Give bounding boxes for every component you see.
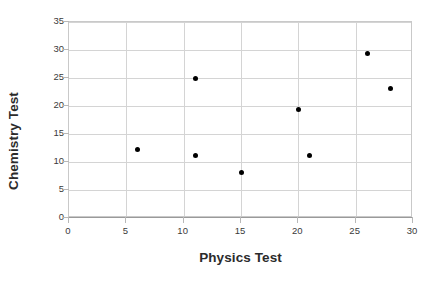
x-tick-mark — [412, 217, 413, 223]
y-tick-label: 5 — [38, 184, 64, 194]
data-point — [365, 51, 370, 56]
gridline-vertical — [184, 22, 185, 216]
y-tick-label: 30 — [38, 44, 64, 54]
y-tick-label: 35 — [38, 16, 64, 26]
x-tick-mark — [68, 217, 69, 223]
y-tick-mark — [63, 189, 69, 190]
gridline-vertical — [356, 22, 357, 216]
plot-area — [68, 21, 412, 217]
y-tick-label: 25 — [38, 72, 64, 82]
x-tick-label: 25 — [340, 226, 370, 236]
y-tick-mark — [63, 21, 69, 22]
y-tick-mark — [63, 161, 69, 162]
x-tick-label: 20 — [282, 226, 312, 236]
x-tick-mark — [125, 217, 126, 223]
y-tick-mark — [63, 105, 69, 106]
y-tick-mark — [63, 49, 69, 50]
x-axis-title: Physics Test — [68, 250, 413, 265]
x-tick-mark — [240, 217, 241, 223]
gridline-horizontal — [69, 50, 411, 51]
gridline-vertical — [298, 22, 299, 216]
data-point — [296, 107, 301, 112]
y-tick-label: 15 — [38, 128, 64, 138]
x-tick-mark — [183, 217, 184, 223]
y-tick-mark — [63, 77, 69, 78]
data-point — [239, 170, 244, 175]
gridline-horizontal — [69, 162, 411, 163]
gridline-vertical — [126, 22, 127, 216]
x-tick-mark — [297, 217, 298, 223]
y-tick-label: 0 — [38, 212, 64, 222]
x-tick-label: 5 — [110, 226, 140, 236]
data-point — [193, 76, 198, 81]
scatter-chart: Chemistry Test 05101520253035 0510152025… — [0, 0, 435, 282]
x-tick-label: 10 — [168, 226, 198, 236]
data-point — [135, 147, 140, 152]
y-tick-label: 10 — [38, 156, 64, 166]
y-tick-label: 20 — [38, 100, 64, 110]
gridline-horizontal — [69, 190, 411, 191]
y-tick-mark — [63, 133, 69, 134]
gridline-horizontal — [69, 106, 411, 107]
gridline-vertical — [241, 22, 242, 216]
x-axis-ticks: 051015202530 — [0, 226, 435, 240]
x-tick-label: 30 — [397, 226, 427, 236]
gridline-horizontal — [69, 22, 411, 23]
x-tick-label: 0 — [53, 226, 83, 236]
gridline-horizontal — [69, 78, 411, 79]
data-point — [388, 86, 393, 91]
data-point — [193, 153, 198, 158]
x-tick-mark — [355, 217, 356, 223]
gridline-horizontal — [69, 134, 411, 135]
data-point — [307, 153, 312, 158]
x-tick-label: 15 — [225, 226, 255, 236]
